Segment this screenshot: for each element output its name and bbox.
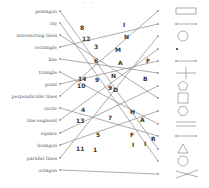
crossing-label: H [130,108,135,115]
connector-canvas: 8123614109941375111INMAFNBDHAFRII [0,0,209,188]
crossing-label: I [123,21,125,28]
crossing-label: I [132,141,134,148]
intersecting-lines-shape [176,170,198,178]
crossing-label: 13 [76,117,84,124]
pentagon-shape [178,81,188,90]
crossing-label: D [113,86,118,93]
connector-line[interactable] [60,24,158,47]
connector-line[interactable] [60,59,158,73]
crossing-label: 4 [81,106,85,113]
connector-line[interactable] [60,170,158,174]
crossing-label: 10 [77,82,85,89]
crossing-label: 11 [76,145,84,152]
crossing-label: 1 [93,146,97,153]
square-shape [178,93,188,103]
crossing-label: 9 [95,76,99,83]
crossing-label: I [144,140,146,147]
circle-2-shape [178,156,188,166]
crossing-label: B [143,75,148,82]
crossing-label: N [124,33,129,40]
triangle-shape [178,144,188,153]
crossing-label: 12 [82,35,90,42]
crossing-label: R [151,135,156,142]
perpendicular-lines-shape [176,67,196,79]
parallel-lines-shape [176,122,196,126]
crossing-label: A [140,116,145,123]
crossing-label: A [118,59,123,66]
matching-diagram: — · — pentagonrayintersecting linesrecta… [0,0,209,188]
crossing-label: 7 [108,114,112,121]
crossing-label: M [115,46,121,53]
rectangle-shape [176,8,196,14]
line-shape [175,60,197,62]
line-segment-shape [175,23,197,25]
crossing-label: F [130,131,134,138]
point-shape [176,48,178,50]
crossing-label: 9 [108,84,112,91]
crossing-label: 5 [96,131,100,138]
crossing-label: 6 [94,57,98,64]
crossing-label: F [146,57,150,64]
crossing-label: 3 [94,43,98,50]
crossing-label: 8 [80,24,84,31]
circle-shape [178,31,188,41]
line-segment-2-shape [175,135,197,137]
crossing-label: 14 [78,75,86,82]
crossing-label: N [111,72,116,79]
hexagon-shape [178,107,188,116]
